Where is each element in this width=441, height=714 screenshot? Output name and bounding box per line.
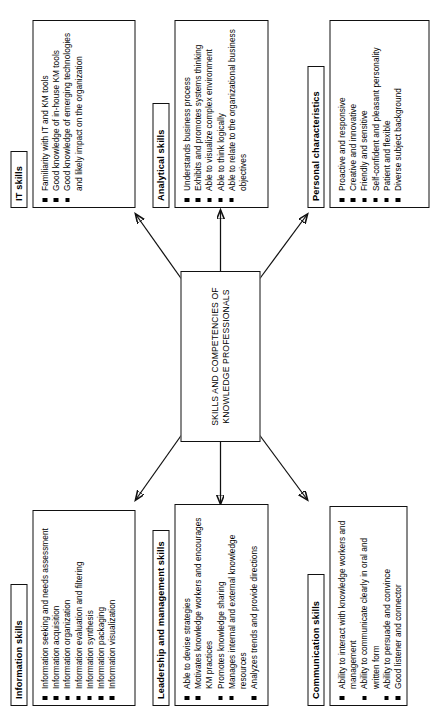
bullet-icon — [65, 696, 69, 700]
bullet-icon — [195, 198, 199, 202]
list-item: Information packaging — [95, 516, 106, 700]
personal-characteristics-body: Proactive and responsive Creative and in… — [329, 20, 429, 208]
list-item-label: Manages internal and external knowledge … — [226, 535, 247, 689]
list-item-label: Information synthesis — [84, 610, 94, 689]
bullet-icon — [53, 696, 57, 700]
list-item: Analyzes trends and provide directions — [248, 510, 259, 700]
it-skills-body: Familiarity with IT and KM tools Good kn… — [32, 20, 135, 208]
bullet-icon — [184, 198, 188, 202]
list-item-label: Information organization — [61, 600, 71, 690]
list-item: Friendly and sensitive — [358, 26, 369, 202]
list-item-label: Ability to interact with knowledge worke… — [336, 521, 357, 689]
list-item-label: Motivates knowledge workers and encourag… — [192, 518, 213, 689]
diagram-stage: SKILLS AND COMPETENCIES OF KNOWLEDGE PRO… — [0, 0, 441, 714]
bullet-icon — [362, 198, 366, 202]
list-item: Able to think logically — [215, 26, 226, 202]
list-item: Proactive and responsive — [336, 26, 347, 202]
bullet-icon — [109, 696, 113, 700]
list-item-label: Self-confident and pleasant personality — [370, 47, 380, 191]
list-item-label: Good knowledge of emerging technologies … — [61, 33, 82, 191]
bullet-icon — [395, 198, 399, 202]
list-item-label: Ability to persuade and convince — [381, 569, 391, 689]
communication-skills-body: Ability to interact with knowledge worke… — [329, 506, 407, 706]
list-item: Able to devise strategies — [181, 510, 192, 700]
bullet-icon — [339, 198, 343, 202]
list-item-label: Able to relate to the organizational bus… — [226, 29, 247, 191]
list-item: Information acquisition — [50, 516, 61, 700]
list-item: Ability to communicate clearly in oral a… — [358, 512, 380, 700]
information-skills-list: Information seeking and needs assessment… — [39, 516, 117, 700]
list-item-label: Diverse subject background — [392, 88, 402, 191]
list-item-label: Understands business process — [181, 77, 191, 191]
leadership-and-management-skills-body: Able to devise strategies Motivates know… — [174, 504, 268, 706]
list-item-label: Patient and flexible — [381, 120, 391, 191]
list-item-label: Promotes knowledge sharing — [215, 581, 225, 689]
list-item-label: Familiarity with IT and KM tools — [39, 75, 49, 191]
personal-characteristics-list: Proactive and responsive Creative and in… — [336, 26, 403, 202]
list-item-label: Information seeking and needs assessment — [39, 528, 49, 689]
information-skills-title: Information skills — [10, 584, 27, 706]
bullet-icon — [229, 696, 233, 700]
communication-skills-list: Ability to interact with knowledge worke… — [336, 512, 403, 700]
analytical-skills-list: Understands business process Exhibits an… — [181, 26, 248, 202]
list-item: Able to relate to the organizational bus… — [226, 26, 248, 202]
personal-characteristics-title: Personal characteristics — [307, 66, 324, 208]
list-item: Familiarity with IT and KM tools — [39, 26, 50, 202]
list-item: Information organization — [61, 516, 72, 700]
list-item: Information seeking and needs assessment — [39, 516, 50, 700]
list-item: Patient and flexible — [381, 26, 392, 202]
bullet-icon — [218, 696, 222, 700]
list-item-label: Information evaluation and filtering — [73, 561, 83, 689]
list-item: Good knowledge of in-house KM tools — [50, 26, 61, 202]
it-skills-list: Familiarity with IT and KM tools Good kn… — [39, 26, 84, 202]
list-item-label: Friendly and sensitive — [358, 110, 368, 191]
analytical-skills-body: Understands business process Exhibits an… — [174, 20, 268, 208]
it-skills-title: IT skills — [10, 151, 27, 208]
list-item-label: Able to devise strategies — [181, 598, 191, 689]
bullet-icon — [195, 696, 199, 700]
information-skills-body: Information seeking and needs assessment… — [32, 510, 135, 706]
center-node: SKILLS AND COMPETENCIES OF KNOWLEDGE PRO… — [180, 271, 260, 442]
list-item: Promotes knowledge sharing — [215, 510, 226, 700]
list-item-label: Good listener and connector — [392, 584, 402, 689]
list-item-label: Exhibits and promotes systems thinking — [192, 45, 202, 191]
list-item: Exhibits and promotes systems thinking — [192, 26, 203, 202]
bullet-icon — [251, 696, 255, 700]
list-item: Good knowledge of emerging technologies … — [61, 26, 83, 202]
bullet-icon — [339, 696, 343, 700]
list-item: Ability to persuade and convince — [381, 512, 392, 700]
bullet-icon — [229, 198, 233, 202]
list-item: Information synthesis — [84, 516, 95, 700]
list-item: Information visualization — [106, 516, 117, 700]
list-item: Able to visualize complex environment — [203, 26, 214, 202]
list-item: Diverse subject background — [392, 26, 403, 202]
leadership-and-management-skills-list: Able to devise strategies Motivates know… — [181, 510, 259, 700]
list-item-label: Good knowledge of in-house KM tools — [50, 50, 60, 191]
list-item: Self-confident and pleasant personality — [370, 26, 381, 202]
list-item: Manages internal and external knowledge … — [226, 510, 248, 700]
list-item: Creative and innovative — [347, 26, 358, 202]
bullet-icon — [207, 198, 211, 202]
list-item-label: Information packaging — [95, 607, 105, 689]
bullet-icon — [98, 696, 102, 700]
bullet-icon — [76, 696, 80, 700]
bullet-icon — [350, 198, 354, 202]
figure-canvas: SKILLS AND COMPETENCIES OF KNOWLEDGE PRO… — [0, 0, 441, 714]
list-item-label: Ability to communicate clearly in oral a… — [358, 538, 379, 689]
leadership-and-management-skills-title: Leadership and management skills — [152, 530, 169, 706]
list-item: Understands business process — [181, 26, 192, 202]
list-item-label: Information visualization — [106, 599, 116, 689]
analytical-skills-title: Analytical skills — [152, 103, 169, 208]
bullet-icon — [373, 198, 377, 202]
list-item-label: Proactive and responsive — [336, 97, 346, 191]
list-item-label: Able to think logically — [215, 113, 225, 191]
bullet-icon — [42, 696, 46, 700]
list-item: Good listener and connector — [392, 512, 403, 700]
list-item: Information evaluation and filtering — [73, 516, 84, 700]
communication-skills-title: Communication skills — [307, 574, 324, 706]
bullet-icon — [384, 696, 388, 700]
center-node-label: SKILLS AND COMPETENCIES OF KNOWLEDGE PRO… — [209, 276, 232, 437]
bullet-icon — [184, 696, 188, 700]
list-item-label: Analyzes trends and provide directions — [248, 546, 258, 689]
list-item-label: Information acquisition — [50, 606, 60, 689]
